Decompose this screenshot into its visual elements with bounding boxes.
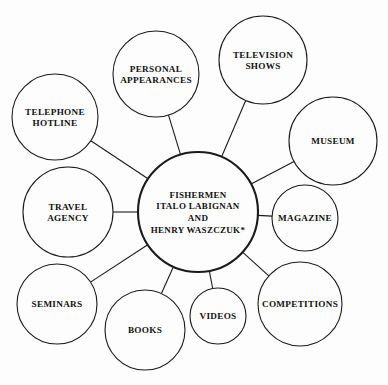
node-label-line: FISHERMEN bbox=[169, 190, 226, 200]
node-circle-center-node[interactable] bbox=[138, 152, 258, 272]
connector-center-node-to-magazine bbox=[258, 215, 272, 216]
node-label-books: BOOKS bbox=[128, 325, 162, 335]
mind-map-diagram: PERSONALAPPEARANCESTELEVISIONSHOWSTELEPH… bbox=[0, 0, 388, 385]
node-label-line: BOOKS bbox=[128, 325, 162, 335]
node-label-line: AND bbox=[188, 213, 209, 223]
connector-center-node-to-videos bbox=[209, 271, 212, 289]
node-telephone-hotline[interactable]: TELEPHONEHOTLINE bbox=[12, 74, 98, 160]
node-books[interactable]: BOOKS bbox=[105, 290, 185, 370]
node-label-line: SEMINARS bbox=[32, 299, 83, 309]
node-center-node[interactable]: FISHERMENITALO LABIGNANANDHENRY WASZCZUK… bbox=[138, 152, 258, 272]
node-competitions[interactable]: COMPETITIONS bbox=[258, 262, 342, 346]
node-label-magazine: MAGAZINE bbox=[278, 213, 332, 223]
mind-map-canvas: PERSONALAPPEARANCESTELEVISIONSHOWSTELEPH… bbox=[0, 0, 388, 385]
node-label-videos: VIDEOS bbox=[199, 311, 236, 321]
node-television-shows[interactable]: TELEVISIONSHOWS bbox=[219, 16, 307, 104]
node-circle-television-shows[interactable] bbox=[219, 16, 307, 104]
node-travel-agency[interactable]: TRAVELAGENCY bbox=[23, 167, 113, 257]
node-label-seminars: SEMINARS bbox=[32, 299, 83, 309]
node-label-personal-appearances: PERSONALAPPEARANCES bbox=[120, 64, 192, 85]
node-label-line: HENRY WASZCZUK* bbox=[151, 225, 246, 235]
node-label-line: ITALO LABIGNAN bbox=[156, 201, 239, 211]
node-label-line: VIDEOS bbox=[199, 311, 236, 321]
node-label-line: AGENCY bbox=[47, 213, 89, 223]
node-label-line: MUSEUM bbox=[311, 136, 355, 146]
node-label-line: PERSONAL bbox=[130, 64, 182, 74]
node-label-line: MAGAZINE bbox=[278, 213, 332, 223]
node-label-telephone-hotline: TELEPHONEHOTLINE bbox=[25, 107, 85, 128]
node-museum[interactable]: MUSEUM bbox=[289, 97, 377, 185]
connector-center-node-to-personal-appearances bbox=[169, 115, 181, 154]
node-circle-personal-appearances[interactable] bbox=[113, 31, 199, 117]
connector-center-node-to-television-shows bbox=[222, 100, 246, 156]
node-seminars[interactable]: SEMINARS bbox=[17, 264, 97, 344]
connector-center-node-to-telephone-hotline bbox=[91, 141, 148, 179]
node-label-line: HOTLINE bbox=[33, 118, 78, 128]
connector-center-node-to-seminars bbox=[90, 245, 147, 282]
connector-center-node-to-competitions bbox=[243, 252, 269, 276]
node-label-travel-agency: TRAVELAGENCY bbox=[47, 202, 89, 223]
node-personal-appearances[interactable]: PERSONALAPPEARANCES bbox=[113, 31, 199, 117]
node-label-line: TELEVISION bbox=[233, 50, 293, 60]
node-label-competitions: COMPETITIONS bbox=[262, 299, 338, 309]
connector-center-node-to-museum bbox=[251, 161, 294, 184]
node-circle-travel-agency[interactable] bbox=[23, 167, 113, 257]
node-label-line: SHOWS bbox=[245, 61, 280, 71]
node-magazine[interactable]: MAGAZINE bbox=[272, 185, 338, 251]
node-circle-telephone-hotline[interactable] bbox=[12, 74, 98, 160]
node-label-line: APPEARANCES bbox=[120, 75, 192, 85]
node-label-line: TELEPHONE bbox=[25, 107, 85, 117]
connector-center-node-to-books bbox=[161, 267, 173, 294]
node-label-museum: MUSEUM bbox=[311, 136, 355, 146]
node-label-line: TRAVEL bbox=[49, 202, 88, 212]
node-label-line: COMPETITIONS bbox=[262, 299, 338, 309]
node-videos[interactable]: VIDEOS bbox=[190, 288, 246, 344]
node-layer: PERSONALAPPEARANCESTELEVISIONSHOWSTELEPH… bbox=[12, 16, 377, 370]
